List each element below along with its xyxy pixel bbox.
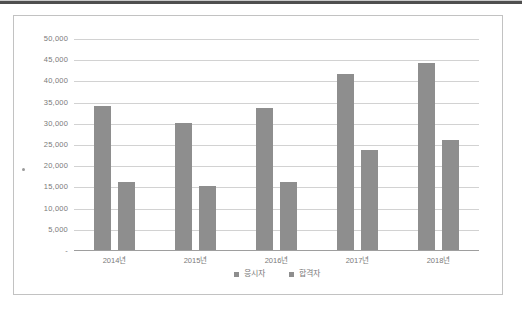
chart-frame: 50,00045,00040,00035,00030,00025,00020,0… <box>13 15 503 295</box>
bar-합격자 <box>280 182 297 250</box>
x-axis-category-label: 2018년 <box>398 255 479 267</box>
legend: 응시자합격자 <box>74 267 479 281</box>
document-top-rule <box>0 0 522 4</box>
y-axis-tick-label: 10,000 <box>14 204 68 214</box>
legend-item: 합격자 <box>289 269 320 279</box>
y-axis-tick-label: 25,000 <box>14 140 68 150</box>
gridline <box>74 39 479 40</box>
bar-응시자 <box>175 123 192 250</box>
bar-합격자 <box>199 186 216 250</box>
y-axis-tick-label: 40,000 <box>14 76 68 86</box>
y-axis-tick-label: 5,000 <box>14 225 68 235</box>
legend-swatch-icon <box>234 272 239 277</box>
x-axis-category-label: 2014년 <box>74 255 155 267</box>
y-axis-tick-label: - <box>14 246 68 256</box>
y-axis: 50,00045,00040,00035,00030,00025,00020,0… <box>14 39 68 251</box>
legend-label: 합격자 <box>299 269 320 279</box>
y-axis-tick-label: 50,000 <box>14 34 68 44</box>
plot-area <box>74 39 479 251</box>
legend-label: 응시자 <box>244 269 265 279</box>
x-axis-category-label: 2015년 <box>155 255 236 267</box>
bar-응시자 <box>94 106 111 250</box>
bar-응시자 <box>256 108 273 250</box>
bar-합격자 <box>118 182 135 250</box>
bar-합격자 <box>361 150 378 250</box>
x-axis-category-label: 2016년 <box>236 255 317 267</box>
bar-응시자 <box>337 74 354 250</box>
legend-item: 응시자 <box>234 269 265 279</box>
gridline <box>74 60 479 61</box>
y-axis-tick-label: 35,000 <box>14 98 68 108</box>
x-axis: 2014년2015년2016년2017년2018년 <box>74 255 479 267</box>
x-axis-category-label: 2017년 <box>317 255 398 267</box>
bar-응시자 <box>418 63 435 250</box>
y-axis-tick-label: 45,000 <box>14 55 68 65</box>
stray-dot-mark <box>22 168 25 171</box>
legend-swatch-icon <box>289 272 294 277</box>
bar-합격자 <box>442 140 459 250</box>
y-axis-tick-label: 15,000 <box>14 182 68 192</box>
y-axis-tick-label: 30,000 <box>14 119 68 129</box>
